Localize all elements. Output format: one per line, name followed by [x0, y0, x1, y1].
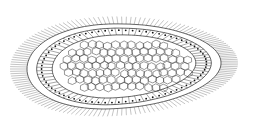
cilia — [10, 16, 238, 116]
larva-diagram — [0, 0, 253, 132]
endoderm-cells — [60, 40, 192, 92]
ectoderm-layer — [27, 24, 221, 109]
